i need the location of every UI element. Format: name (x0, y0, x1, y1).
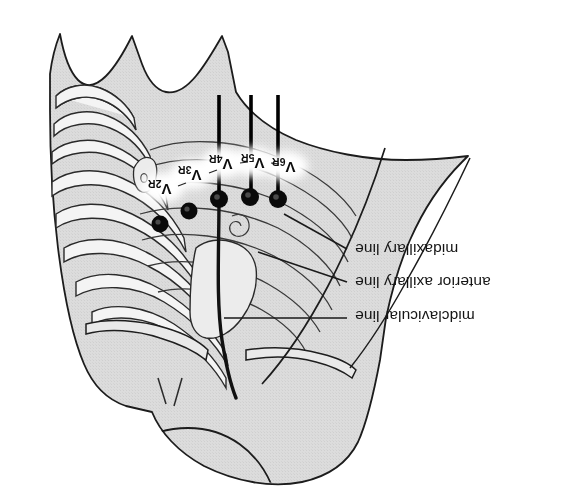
electrode-v3r[interactable] (181, 203, 198, 220)
electrode-v5r[interactable] (241, 188, 259, 206)
electrode-v2r[interactable] (152, 216, 169, 233)
electrode-v6r[interactable] (269, 190, 287, 208)
electrode-v4r[interactable] (210, 190, 228, 208)
thorax-illustration (0, 0, 561, 498)
